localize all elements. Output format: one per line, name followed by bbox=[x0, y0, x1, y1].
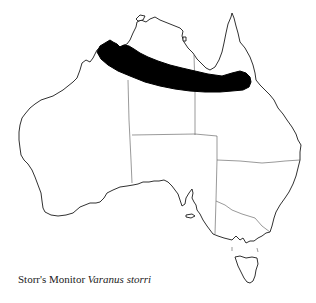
tasmania-coastline bbox=[235, 256, 258, 283]
scientific-name: Varanus storri bbox=[88, 273, 151, 285]
bass-strait-islet-2 bbox=[257, 248, 258, 252]
kangaroo-island bbox=[186, 214, 195, 218]
melville-island bbox=[136, 15, 145, 21]
australia-map bbox=[0, 0, 316, 303]
mainland-coastline bbox=[19, 13, 301, 243]
groote-island bbox=[183, 37, 186, 41]
map-caption: Storr's Monitor Varanus storri bbox=[18, 273, 151, 285]
common-name: Storr's Monitor bbox=[18, 273, 85, 285]
